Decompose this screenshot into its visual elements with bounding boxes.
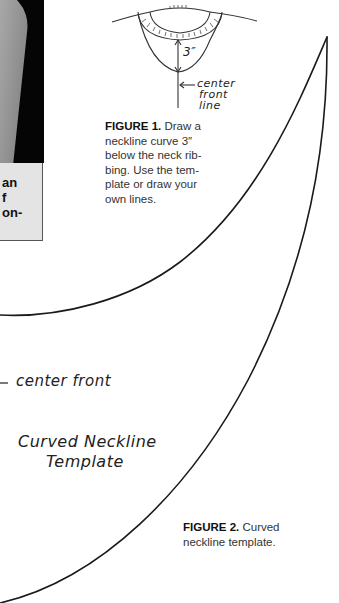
figure1-text-6: own lines. [105,193,156,205]
figure1-caption: FIGURE 1. Draw a neckline curve 3″ below… [105,119,215,206]
figure1-text-2: neckline curve 3″ [105,135,192,147]
measurement-label: 3″ [183,45,196,59]
figure1-text-4: bing. Use the tem- [105,164,199,176]
annotation-line-3: line [197,100,235,111]
center-front-label: center front [16,372,111,390]
figure1-text-5: plate or draw your [105,178,197,190]
template-drawing [0,0,339,603]
figure2-label: FIGURE 2. [183,521,239,533]
template-title-line-1: Curved Neckline [18,432,157,451]
figure1-label: FIGURE 1. [105,120,161,132]
figure2-text-2: neckline template. [183,536,276,548]
figure1-text-1: Draw a [164,120,200,132]
template-title-line-2: Template [46,452,124,471]
figure2-text-1: Curved [242,521,279,533]
center-front-line-annotation: center front line [197,78,235,111]
figure1-text-3: below the neck rib- [105,149,202,161]
figure2-caption: FIGURE 2. Curved neckline template. [183,520,303,549]
